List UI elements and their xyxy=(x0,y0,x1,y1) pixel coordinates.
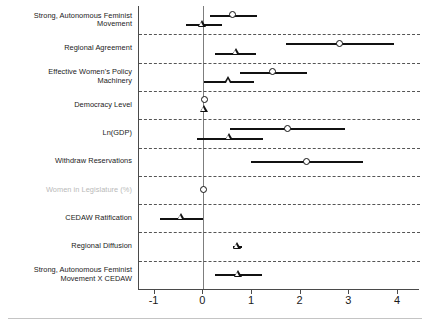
estimate-triangle xyxy=(139,270,420,280)
open-circle-marker xyxy=(200,186,207,193)
estimate-triangle xyxy=(139,105,420,115)
row-label: CEDAW Ratification xyxy=(65,214,132,223)
x-axis-tick-label: 4 xyxy=(394,294,400,306)
footer-divider xyxy=(8,318,422,319)
row-label: Regional Agreement xyxy=(64,44,132,53)
row-separator xyxy=(139,119,420,120)
open-triangle-marker xyxy=(232,48,240,55)
row-label: Withdraw Reservations xyxy=(55,157,132,166)
row-separator xyxy=(139,148,420,149)
row-separator xyxy=(139,261,420,262)
estimate-triangle xyxy=(139,48,420,58)
row-label: Democracy Level xyxy=(74,101,132,110)
x-axis xyxy=(138,289,419,290)
row-label: Ln(GDP) xyxy=(102,129,132,138)
row-separator xyxy=(139,63,420,64)
x-axis-tick-label: 1 xyxy=(248,294,254,306)
open-triangle-marker xyxy=(198,20,206,27)
open-triangle-marker xyxy=(233,242,241,249)
estimate-circle xyxy=(139,157,420,167)
open-circle-marker xyxy=(336,40,343,47)
row-separator xyxy=(139,176,420,177)
row-label-column: Strong, Autonomous Feminist MovementRegi… xyxy=(0,0,136,290)
open-triangle-marker xyxy=(224,76,232,83)
row-separator xyxy=(139,91,420,92)
row-label: Regional Diffusion xyxy=(71,242,132,251)
open-circle-marker xyxy=(284,125,291,132)
open-circle-marker xyxy=(201,96,208,103)
estimate-triangle xyxy=(139,242,420,252)
estimate-triangle xyxy=(139,20,420,30)
open-circle-marker xyxy=(229,11,236,18)
open-circle-marker xyxy=(303,158,310,165)
estimate-triangle xyxy=(139,213,420,223)
coefficient-plot-figure: Strong, Autonomous Feminist MovementRegi… xyxy=(0,0,429,328)
open-triangle-marker xyxy=(234,270,242,277)
x-axis-tick-label: 0 xyxy=(199,294,205,306)
row-separator xyxy=(139,34,420,35)
row-separator xyxy=(139,232,420,233)
plot-area xyxy=(138,6,419,289)
x-axis-tick-label: 3 xyxy=(345,294,351,306)
row-label: Women in Legislature (%) xyxy=(46,186,132,195)
row-label: Strong, Autonomous Feminist Movement X C… xyxy=(34,266,132,283)
open-circle-marker xyxy=(269,68,276,75)
row-separator xyxy=(139,204,420,205)
estimate-triangle xyxy=(139,133,420,143)
row-label: Effective Women's Policy Machinery xyxy=(48,68,132,85)
estimate-triangle xyxy=(139,76,420,86)
open-triangle-marker xyxy=(225,133,233,140)
x-axis-tick-label: -1 xyxy=(149,294,159,306)
open-triangle-marker xyxy=(200,105,208,112)
open-triangle-marker xyxy=(177,213,185,220)
estimate-circle xyxy=(139,185,420,195)
row-label: Strong, Autonomous Feminist Movement xyxy=(34,12,132,29)
x-axis-tick-label: 2 xyxy=(297,294,303,306)
